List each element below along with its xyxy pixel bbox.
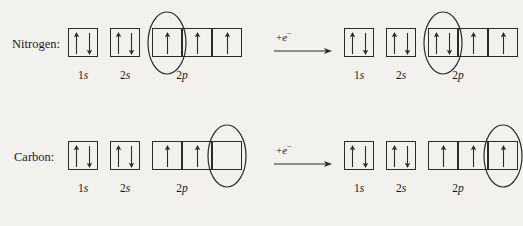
orbital-box bbox=[68, 141, 98, 170]
electron-arrow-up bbox=[73, 145, 80, 168]
electron-arrow-up bbox=[500, 145, 507, 168]
electron-arrow-up bbox=[349, 145, 356, 168]
arrow-right-icon bbox=[274, 45, 332, 57]
orbital-box bbox=[152, 28, 182, 57]
reaction-label: +e− bbox=[276, 30, 292, 43]
electron-arrow-down bbox=[446, 32, 453, 55]
element-label-carbon: Carbon: bbox=[14, 151, 54, 164]
electron-arrow-up bbox=[224, 32, 231, 55]
subshell-label-1s: 1s bbox=[339, 70, 379, 82]
subshell-label-1s: 1s bbox=[63, 70, 103, 82]
orbital-box bbox=[386, 28, 416, 57]
electron-arrow-down bbox=[128, 32, 135, 55]
reaction-arrow-group: +e− bbox=[274, 30, 334, 64]
orbital-box bbox=[110, 28, 140, 57]
orbital-box bbox=[212, 141, 242, 170]
electron-arrow-down bbox=[404, 145, 411, 168]
subshell-label-2p: 2p bbox=[438, 183, 478, 195]
arrow-right-icon bbox=[274, 158, 332, 170]
orbital-box bbox=[344, 28, 374, 57]
electron-arrow-down bbox=[404, 32, 411, 55]
subshell-label-2s: 2s bbox=[381, 70, 421, 82]
reaction-label: +e− bbox=[276, 143, 292, 156]
electron-arrow-up bbox=[349, 32, 356, 55]
electron-arrow-up bbox=[391, 145, 398, 168]
reaction-arrow-group: +e− bbox=[274, 143, 334, 177]
orbital-box bbox=[152, 141, 182, 170]
orbital-box bbox=[458, 28, 488, 57]
orbital-box bbox=[428, 28, 458, 57]
diagram-row-nitrogen: Nitrogen:1s2s2p+e−1s2s2p bbox=[0, 0, 516, 113]
electron-arrow-up bbox=[433, 32, 440, 55]
orbital-box bbox=[110, 141, 140, 170]
subshell-label-2s: 2s bbox=[105, 70, 145, 82]
electron-arrow-up bbox=[194, 32, 201, 55]
orbital-box bbox=[386, 141, 416, 170]
orbital-box bbox=[212, 28, 242, 57]
electron-arrow-up bbox=[73, 32, 80, 55]
subshell-label-2p: 2p bbox=[162, 70, 202, 82]
orbital-box bbox=[488, 141, 518, 170]
electron-arrow-down bbox=[86, 145, 93, 168]
electron-arrow-up bbox=[470, 32, 477, 55]
orbital-box bbox=[488, 28, 518, 57]
element-label-nitrogen: Nitrogen: bbox=[12, 38, 60, 51]
electron-arrow-up bbox=[115, 32, 122, 55]
electron-arrow-up bbox=[164, 32, 171, 55]
electron-arrow-down bbox=[128, 145, 135, 168]
electron-arrow-down bbox=[362, 145, 369, 168]
electron-arrow-up bbox=[194, 145, 201, 168]
subshell-label-1s: 1s bbox=[339, 183, 379, 195]
electron-arrow-up bbox=[440, 145, 447, 168]
orbital-box bbox=[182, 28, 212, 57]
subshell-label-1s: 1s bbox=[63, 183, 103, 195]
electron-arrow-up bbox=[115, 145, 122, 168]
orbital-box bbox=[68, 28, 98, 57]
orbital-box bbox=[344, 141, 374, 170]
subshell-label-2p: 2p bbox=[162, 183, 202, 195]
electron-arrow-up bbox=[500, 32, 507, 55]
orbital-box bbox=[428, 141, 458, 170]
electron-arrow-up bbox=[470, 145, 477, 168]
electron-arrow-up bbox=[391, 32, 398, 55]
subshell-label-2s: 2s bbox=[105, 183, 145, 195]
electron-arrow-down bbox=[362, 32, 369, 55]
subshell-label-2p: 2p bbox=[438, 70, 478, 82]
diagram-row-carbon: Carbon:1s2s2p+e−1s2s2p bbox=[0, 113, 516, 226]
electron-arrow-up bbox=[164, 145, 171, 168]
orbital-box bbox=[182, 141, 212, 170]
electron-arrow-down bbox=[86, 32, 93, 55]
orbital-box bbox=[458, 141, 488, 170]
subshell-label-2s: 2s bbox=[381, 183, 421, 195]
